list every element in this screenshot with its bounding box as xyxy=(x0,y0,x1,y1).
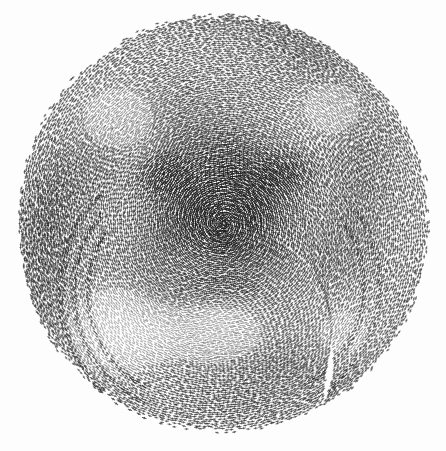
artwork-root: Stippled Halftone Disc Dense circular fi… xyxy=(0,0,446,451)
halftone-disc-canvas xyxy=(0,0,446,451)
